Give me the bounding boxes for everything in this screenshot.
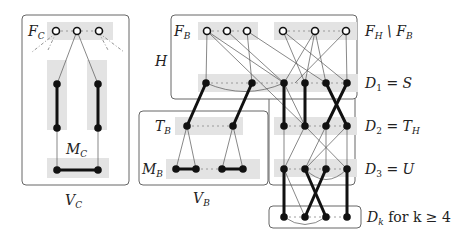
label-h: H	[154, 53, 168, 69]
graph-diagram: FC MC VC FB H FH \ FB D1 = S TB D2 = TH …	[0, 0, 459, 240]
label-fc: FC	[27, 23, 45, 41]
label-dk: Dk for k ≥ 4	[366, 209, 451, 227]
label-fb: FB	[173, 23, 191, 41]
label-vc: VC	[65, 192, 82, 210]
label-vb: VB	[193, 190, 210, 208]
label-d1: D1 = S	[364, 75, 412, 93]
label-fh-minus-fb: FH \ FB	[364, 23, 413, 41]
label-tb: TB	[155, 118, 171, 136]
label-d3: D3 = U	[364, 161, 416, 179]
label-mb: MB	[141, 161, 163, 179]
label-mc: MC	[65, 141, 87, 159]
label-d2: D2 = TH	[364, 118, 420, 136]
